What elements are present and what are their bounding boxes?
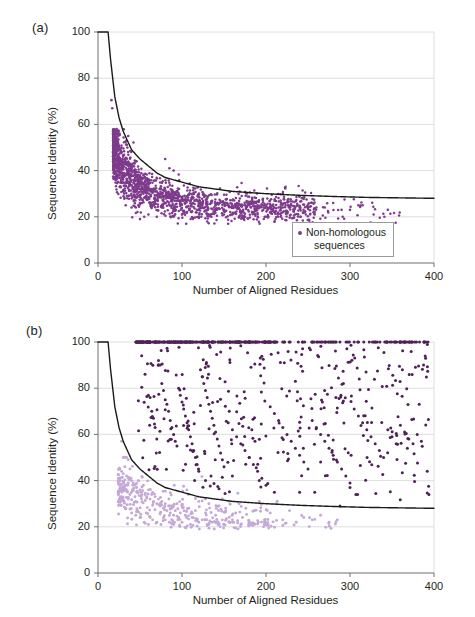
- data-point: [164, 518, 167, 521]
- data-point: [396, 392, 399, 395]
- data-point: [328, 521, 331, 524]
- data-point: [291, 200, 294, 203]
- data-point: [206, 202, 209, 205]
- data-point: [137, 165, 140, 168]
- data-point: [223, 194, 226, 197]
- data-point: [137, 168, 140, 171]
- data-point: [228, 340, 231, 343]
- data-point: [214, 458, 217, 461]
- data-point: [374, 442, 377, 445]
- data-point: [284, 204, 287, 207]
- data-point: [324, 206, 327, 209]
- data-point: [167, 179, 170, 182]
- data-point: [151, 173, 154, 176]
- data-point: [223, 202, 226, 205]
- data-point: [171, 189, 174, 192]
- data-point: [263, 367, 266, 370]
- data-point: [236, 207, 239, 210]
- data-point: [427, 418, 430, 421]
- data-point: [259, 457, 262, 460]
- data-point: [413, 452, 416, 455]
- data-point: [186, 189, 189, 192]
- data-point: [179, 394, 182, 397]
- data-point: [403, 431, 406, 434]
- data-point: [135, 510, 138, 513]
- data-point: [215, 507, 218, 510]
- data-point: [135, 174, 138, 177]
- data-point: [117, 492, 120, 495]
- data-point: [223, 523, 226, 526]
- data-point: [122, 155, 125, 158]
- data-point: [133, 165, 136, 168]
- data-point: [184, 463, 187, 466]
- data-point: [211, 521, 214, 524]
- data-point: [217, 509, 220, 512]
- data-point: [132, 205, 135, 208]
- data-point: [356, 366, 359, 369]
- data-point: [239, 340, 242, 343]
- data-point: [337, 209, 340, 212]
- data-point: [130, 184, 133, 187]
- data-point: [176, 502, 179, 505]
- data-point: [391, 384, 394, 387]
- data-point: [290, 204, 293, 207]
- data-point: [315, 426, 318, 429]
- data-point: [287, 201, 290, 204]
- data-point: [164, 210, 167, 213]
- data-point: [189, 435, 192, 438]
- data-point: [406, 403, 409, 406]
- data-point: [223, 210, 226, 213]
- data-point: [265, 484, 268, 487]
- data-point: [374, 492, 377, 495]
- data-point: [216, 400, 219, 403]
- data-point: [302, 516, 305, 519]
- data-point: [319, 514, 322, 517]
- data-point: [372, 341, 375, 344]
- data-point: [260, 521, 263, 524]
- data-point: [311, 202, 314, 205]
- data-point: [253, 440, 256, 443]
- data-point: [211, 417, 214, 420]
- data-point: [372, 205, 375, 208]
- data-point: [141, 476, 144, 479]
- data-point: [117, 504, 120, 507]
- data-point: [253, 509, 256, 512]
- data-point: [127, 151, 130, 154]
- data-point: [196, 525, 199, 528]
- data-point: [297, 341, 300, 344]
- data-point: [266, 518, 269, 521]
- data-point: [239, 344, 242, 347]
- data-point: [164, 490, 167, 493]
- data-point: [114, 135, 117, 138]
- data-point: [130, 479, 133, 482]
- data-point: [184, 197, 187, 200]
- data-point: [112, 157, 115, 160]
- data-point: [308, 525, 311, 528]
- data-point: [251, 437, 254, 440]
- data-point: [158, 196, 161, 199]
- data-point: [374, 208, 377, 211]
- data-point: [370, 435, 373, 438]
- data-point: [150, 410, 153, 413]
- data-point: [182, 424, 185, 427]
- data-point: [194, 509, 197, 512]
- data-point: [282, 191, 285, 194]
- data-point: [239, 214, 242, 217]
- data-point: [276, 451, 279, 454]
- legend-marker-non-homologous-icon: [298, 231, 302, 235]
- data-point: [120, 176, 123, 179]
- data-point: [135, 524, 138, 527]
- data-point: [140, 495, 143, 498]
- data-point: [196, 209, 199, 212]
- data-point: [167, 195, 170, 198]
- data-point: [156, 216, 159, 219]
- data-point: [213, 482, 216, 485]
- data-point: [174, 509, 177, 512]
- data-point: [398, 214, 401, 217]
- data-point: [191, 524, 194, 527]
- data-point: [147, 406, 150, 409]
- data-point: [198, 202, 201, 205]
- data-point: [212, 424, 215, 427]
- data-point: [125, 456, 128, 459]
- data-point: [156, 199, 159, 202]
